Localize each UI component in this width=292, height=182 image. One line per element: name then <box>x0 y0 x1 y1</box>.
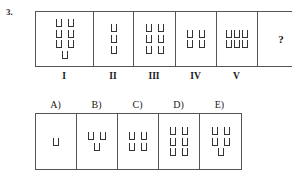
glyph-row <box>126 131 150 142</box>
u-shape-glyph <box>170 148 176 156</box>
u-shape-glyph <box>111 35 117 43</box>
glyph-row <box>225 28 249 39</box>
glyph-row <box>108 23 120 34</box>
sequence-cell-answer[interactable]: ? <box>258 12 292 66</box>
glyph-group <box>225 28 249 50</box>
glyph-row <box>85 131 109 142</box>
u-shape-glyph <box>88 132 94 140</box>
option-label: C) <box>117 97 158 111</box>
sequence-row: ? <box>35 11 292 67</box>
glyph-row <box>143 23 167 34</box>
u-shape-glyph <box>62 51 68 59</box>
u-shape-glyph <box>212 138 218 146</box>
glyph-row <box>53 39 77 50</box>
option-cell-c[interactable] <box>118 114 159 169</box>
sequence-cell-iv[interactable] <box>176 12 217 66</box>
glyph-group <box>85 131 109 153</box>
u-shape-glyph <box>242 40 248 48</box>
glyph-group <box>184 28 208 50</box>
u-shape-glyph <box>68 40 74 48</box>
glyph-row <box>50 136 62 147</box>
u-shape-glyph <box>182 127 188 135</box>
u-shape-glyph <box>226 40 232 48</box>
u-shape-glyph <box>234 30 240 38</box>
glyph-row <box>225 39 249 50</box>
option-cell-d[interactable] <box>159 114 200 169</box>
glyph-row <box>167 147 191 158</box>
sequence-cell-ii[interactable] <box>94 12 134 66</box>
sequence-cell-v[interactable] <box>217 12 258 66</box>
glyph-group <box>108 23 120 55</box>
u-shape-glyph <box>129 143 135 151</box>
glyph-row <box>215 147 227 158</box>
glyph-row <box>126 142 150 153</box>
u-shape-glyph <box>187 30 193 38</box>
u-shape-glyph <box>53 138 59 146</box>
u-shape-glyph <box>146 35 152 43</box>
u-shape-glyph <box>187 40 193 48</box>
u-shape-glyph <box>212 127 218 135</box>
question-mark: ? <box>278 34 284 45</box>
u-shape-glyph <box>158 24 164 32</box>
glyph-row <box>167 125 191 136</box>
glyph-group <box>209 125 233 157</box>
options-row <box>35 113 242 170</box>
u-shape-glyph <box>226 30 232 38</box>
glyph-row <box>108 44 120 55</box>
option-cell-a[interactable] <box>36 114 77 169</box>
sequence-cell-iii[interactable] <box>134 12 176 66</box>
u-shape-glyph <box>56 19 62 27</box>
glyph-row <box>91 142 103 153</box>
glyph-row <box>143 44 167 55</box>
u-shape-glyph <box>141 132 147 140</box>
glyph-row <box>184 39 208 50</box>
u-shape-glyph <box>182 148 188 156</box>
u-shape-glyph <box>224 138 230 146</box>
option-label: B) <box>76 97 117 111</box>
u-shape-glyph <box>146 24 152 32</box>
u-shape-glyph <box>56 40 62 48</box>
u-shape-glyph <box>170 127 176 135</box>
glyph-row <box>167 136 191 147</box>
u-shape-glyph <box>158 35 164 43</box>
glyph-row <box>184 28 208 39</box>
u-shape-glyph <box>242 30 248 38</box>
u-shape-glyph <box>129 132 135 140</box>
u-shape-glyph <box>146 46 152 54</box>
sequence-label: V <box>216 69 257 82</box>
glyph-row <box>53 17 77 28</box>
u-shape-glyph <box>111 46 117 54</box>
option-cell-b[interactable] <box>77 114 118 169</box>
sequence-label <box>257 69 292 82</box>
u-shape-glyph <box>68 30 74 38</box>
u-shape-glyph <box>94 143 100 151</box>
u-shape-glyph <box>170 138 176 146</box>
option-label: D) <box>158 97 199 111</box>
sequence-label: I <box>35 69 93 82</box>
glyph-group <box>167 125 191 157</box>
u-shape-glyph <box>68 19 74 27</box>
glyph-group <box>126 131 150 153</box>
sequence-label: III <box>133 69 175 82</box>
sequence-label: IV <box>175 69 216 82</box>
u-shape-glyph <box>199 40 205 48</box>
u-shape-glyph <box>56 30 62 38</box>
question-number: 3. <box>6 7 13 17</box>
u-shape-glyph <box>182 138 188 146</box>
sequence-label: II <box>93 69 133 82</box>
sequence-label-strip: IIIIIIIVV <box>35 69 292 82</box>
option-cell-e[interactable] <box>200 114 241 169</box>
option-label: A) <box>35 97 76 111</box>
options-label-strip: A)B)C)D)E) <box>35 97 240 111</box>
glyph-group <box>50 136 62 147</box>
option-label: E) <box>199 97 240 111</box>
glyph-row <box>209 125 233 136</box>
u-shape-glyph <box>224 127 230 135</box>
glyph-group <box>143 23 167 55</box>
glyph-group <box>53 17 77 60</box>
u-shape-glyph <box>141 143 147 151</box>
u-shape-glyph <box>158 46 164 54</box>
sequence-cell-i[interactable] <box>36 12 94 66</box>
u-shape-glyph <box>199 30 205 38</box>
u-shape-glyph <box>218 148 224 156</box>
